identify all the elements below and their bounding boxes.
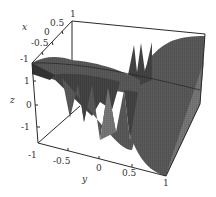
x-axis-ticks: -1 -0.5 0 0.5 1 x: [20, 9, 76, 64]
y-tick-1: 1: [163, 178, 169, 188]
surface: [32, 36, 205, 176]
y-axis-label: y: [81, 174, 88, 184]
z-tick-0: 0: [26, 100, 32, 110]
z-axis-label: z: [9, 95, 15, 105]
y-tick-0: 0: [96, 163, 102, 173]
y-tick--0.5: -0.5: [53, 156, 71, 166]
surface-plot: -1 -0.5 0 0.5 1 x 1 0 -1 z -1 -0.5 0 0.5…: [0, 0, 216, 197]
x-tick-0: 0: [44, 27, 50, 37]
x-tick--1: -1: [20, 54, 29, 64]
y-tick--1: -1: [28, 150, 37, 160]
y-tick-0.5: 0.5: [122, 168, 137, 178]
x-tick-1: 1: [70, 9, 76, 19]
x-axis-label: x: [22, 22, 27, 32]
x-tick--0.5: -0.5: [31, 38, 49, 48]
x-tick-0.5: 0.5: [50, 18, 65, 28]
z-tick--1: -1: [21, 122, 30, 132]
z-tick-1: 1: [24, 76, 30, 86]
